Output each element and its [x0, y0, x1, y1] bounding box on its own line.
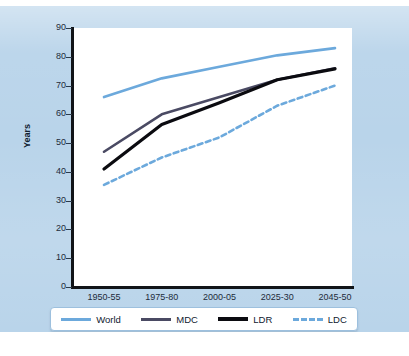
x-tick-label: 2045-50: [300, 292, 370, 302]
x-axis-line: [71, 286, 354, 289]
bottom-margin: [0, 332, 409, 356]
y-tick-label: 10: [38, 253, 66, 262]
y-tick-mark: [66, 57, 72, 58]
y-tick-mark: [66, 86, 72, 87]
chart-figure: Years 0102030405060708090 1950-551975-80…: [0, 0, 409, 356]
y-tick-label: 30: [38, 196, 66, 205]
y-tick-label: 70: [38, 81, 66, 90]
y-tick-label: 80: [38, 52, 66, 61]
legend-item-mdc[interactable]: MDC: [141, 314, 198, 325]
y-tick-label-wrap: 90: [30, 23, 66, 32]
y-tick-label: 40: [38, 167, 66, 176]
legend-label-world: World: [96, 314, 121, 325]
y-tick-label: 50: [38, 138, 66, 147]
y-tick-mark: [66, 287, 72, 288]
y-tick-mark: [66, 143, 72, 144]
y-tick-mark: [66, 114, 72, 115]
y-tick-label-wrap: 10: [30, 253, 66, 262]
legend-swatch-world: [61, 318, 91, 321]
y-axis-line: [71, 27, 74, 288]
legend-label-mdc: MDC: [176, 314, 198, 325]
legend-item-ldr[interactable]: LDR: [218, 314, 272, 325]
y-tick-label: 0: [38, 282, 66, 291]
y-tick-mark: [66, 28, 72, 29]
legend-item-world[interactable]: World: [61, 314, 121, 325]
y-tick-label: 90: [38, 23, 66, 32]
chart-legend: World MDC LDR LDC: [50, 307, 358, 331]
plot-area: [73, 28, 352, 287]
y-tick-label-wrap: 80: [30, 52, 66, 61]
y-tick-label: 20: [38, 224, 66, 233]
y-tick-label-wrap: 70: [30, 81, 66, 90]
y-tick-label-wrap: 50: [30, 138, 66, 147]
y-tick-label-wrap: 0: [30, 282, 66, 291]
y-tick-label-wrap: 30: [30, 196, 66, 205]
y-tick-label-wrap: 40: [30, 167, 66, 176]
y-tick-label-wrap: 20: [30, 224, 66, 233]
legend-swatch-ldr: [218, 317, 248, 321]
y-tick-mark: [66, 229, 72, 230]
legend-item-ldc[interactable]: LDC: [293, 314, 347, 325]
legend-swatch-ldc: [293, 318, 323, 321]
legend-label-ldc: LDC: [328, 314, 347, 325]
y-tick-mark: [66, 201, 72, 202]
legend-label-ldr: LDR: [253, 314, 272, 325]
legend-swatch-mdc: [141, 318, 171, 321]
y-tick-mark: [66, 172, 72, 173]
y-tick-label-wrap: 60: [30, 109, 66, 118]
y-tick-mark: [66, 258, 72, 259]
y-tick-label: 60: [38, 109, 66, 118]
